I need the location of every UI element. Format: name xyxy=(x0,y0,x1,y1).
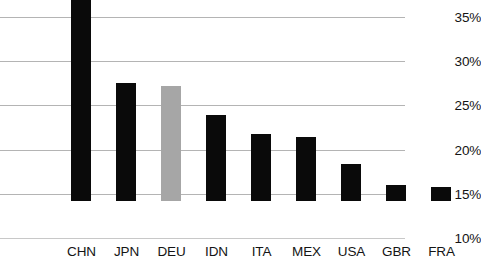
x-tick-label-chn: CHN xyxy=(59,245,104,259)
x-tick-label-jpn: JPN xyxy=(104,245,149,259)
x-tick-label-usa: USA xyxy=(329,245,374,259)
bar-chn[interactable] xyxy=(71,0,91,201)
x-tick-label-fra: FRA xyxy=(419,245,464,259)
bar-fra[interactable] xyxy=(431,187,451,201)
x-tick-label-mex: MEX xyxy=(284,245,329,259)
gridline-baseline-10 xyxy=(0,238,405,239)
bar-mex[interactable] xyxy=(296,137,316,201)
x-tick-label-deu: DEU xyxy=(149,245,194,259)
x-tick-label-ita: ITA xyxy=(239,245,284,259)
bar-jpn[interactable] xyxy=(116,83,136,201)
x-tick-label-gbr: GBR xyxy=(374,245,419,259)
bar-deu[interactable] xyxy=(161,86,181,201)
bar-chart: 35% 30% 25% 20% 15% 10% CHN JPN xyxy=(0,0,481,275)
x-axis: CHN JPN DEU IDN ITA MEX USA GBR FRA xyxy=(62,245,467,267)
bar-ita[interactable] xyxy=(251,134,271,201)
bar-gbr[interactable] xyxy=(386,185,406,201)
x-tick-label-idn: IDN xyxy=(194,245,239,259)
bar-idn[interactable] xyxy=(206,115,226,201)
bar-series xyxy=(62,0,467,238)
bar-usa[interactable] xyxy=(341,164,361,201)
